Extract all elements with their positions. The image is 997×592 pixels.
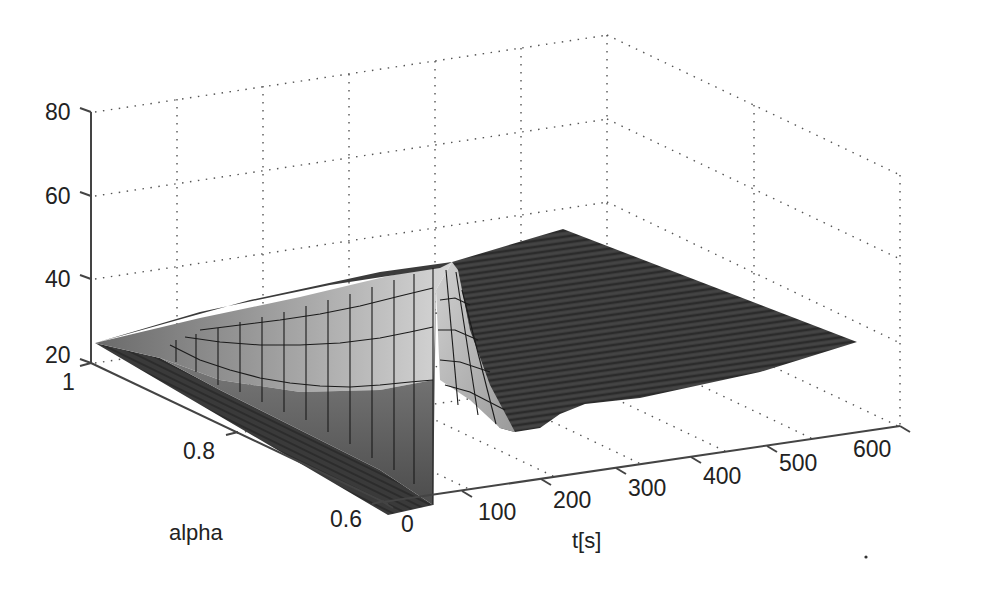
z-tick-40: 40: [45, 266, 71, 292]
stray-dot: [864, 555, 867, 558]
z-tick-80: 80: [45, 99, 71, 125]
surface-flat-right: [452, 229, 857, 432]
t-tick-400: 400: [703, 463, 741, 489]
alpha-tick-0.6: 0.6: [330, 506, 362, 532]
alpha-axis-label: alpha: [169, 520, 224, 545]
surface-plot: 80 60 40 20 1 0.8 0.6 0 100 200 300 400 …: [0, 0, 997, 592]
t-axis-label: t[s]: [572, 528, 601, 553]
z-tick-60: 60: [45, 183, 71, 209]
t-tick-labels: 0 100 200 300 400 500 600: [401, 436, 891, 537]
z-tick-20: 20: [45, 342, 71, 368]
t-tick-500: 500: [779, 450, 817, 476]
t-tick-0: 0: [401, 511, 414, 537]
alpha-tick-0.8: 0.8: [183, 438, 215, 464]
surface: [95, 229, 857, 515]
t-tick-100: 100: [478, 499, 516, 525]
t-tick-200: 200: [553, 487, 591, 513]
t-tick-600: 600: [853, 436, 891, 462]
t-tick-300: 300: [628, 475, 666, 501]
z-tick-labels: 80 60 40 20: [45, 99, 71, 368]
alpha-tick-1: 1: [62, 369, 75, 395]
